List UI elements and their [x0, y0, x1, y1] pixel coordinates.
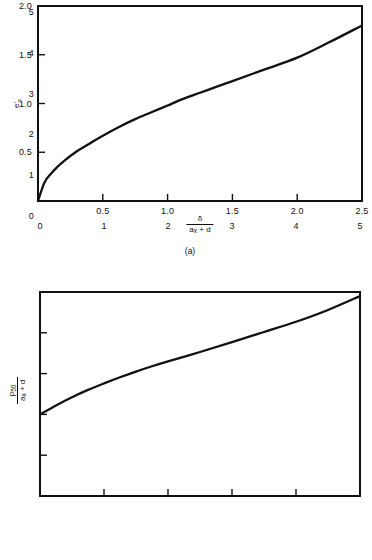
- plot-area-b: [0, 280, 372, 560]
- figure-panel-b: 0 1 2 3 4 5 0 1 2 3 4 5 p50 ax + d δ ax …: [0, 280, 372, 560]
- x-tick-label: 4: [293, 221, 298, 231]
- x-tick-label: 3: [229, 221, 234, 231]
- fraction: p50 ax + d: [8, 377, 27, 404]
- x-tick-label: 2.0: [291, 206, 304, 216]
- x-tick-label: 0.5: [96, 206, 109, 216]
- data-curve: [40, 296, 360, 414]
- y-tick-label: 2: [0, 129, 34, 139]
- y-tick-label: 5: [0, 7, 34, 17]
- plot-area-a: [0, 0, 372, 280]
- y-tick-label: 0.5: [0, 147, 32, 157]
- x-tick-label: 1.5: [226, 206, 239, 216]
- y-tick-label: 0: [0, 211, 34, 221]
- y-tick-label: 1: [0, 170, 34, 180]
- y-tick-label: 3: [0, 89, 34, 99]
- figure-panel-a: 0.5 1.0 1.5 2.0 0.5 1.0 1.5 2.0 2.5 e'x …: [0, 0, 372, 280]
- x-tick-label: 5: [357, 221, 362, 231]
- y-tick-label: 4: [0, 48, 34, 58]
- x-tick-label: 1: [101, 221, 106, 231]
- x-tick-label: 2.5: [355, 206, 368, 216]
- y-axis-title-a: e'x: [12, 99, 21, 108]
- fraction-denominator: ax + d: [186, 225, 213, 235]
- axis-frame: [40, 292, 360, 496]
- fraction-denominator: ax + d: [18, 377, 28, 404]
- axis-frame: [38, 6, 362, 201]
- data-curve: [38, 26, 362, 202]
- x-tick-label: 1.0: [161, 206, 174, 216]
- fraction-numerator: p50: [8, 377, 18, 404]
- x-axis-title-a: δ ax + d: [186, 215, 213, 234]
- fraction: δ ax + d: [186, 215, 213, 234]
- x-tick-label: 0: [37, 221, 42, 231]
- x-tick-label: 2: [165, 221, 170, 231]
- y-axis-title-b: p50 ax + d: [8, 377, 27, 404]
- panel-caption-a: (a): [185, 246, 195, 256]
